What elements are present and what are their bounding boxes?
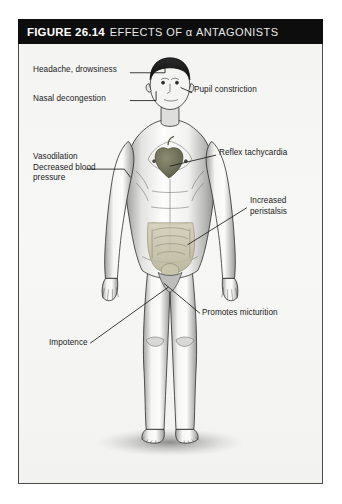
figure-number: FIGURE 26.14	[27, 26, 105, 38]
figure-panel: FIGURE 26.14 EFFECTS OF α ANTAGONISTS	[0, 0, 342, 504]
label-reflex-tachycardia: Reflex tachycardia	[219, 148, 287, 159]
right-hand	[222, 278, 238, 300]
label-pupil-constriction: Pupil constriction	[194, 85, 257, 96]
body-figure	[102, 58, 238, 443]
figure-content-panel: Headache, drowsiness Nasal decongestion …	[18, 44, 323, 484]
left-hand	[102, 278, 118, 300]
label-vasodilation: Vasodilation Decreased blood pressure	[33, 152, 96, 184]
label-increased-peristalsis: Increased peristalsis	[250, 196, 287, 217]
right-eye	[175, 81, 178, 84]
left-foot	[142, 429, 164, 443]
floor-shadow	[96, 428, 243, 456]
label-promotes-micturition: Promotes micturition	[202, 308, 278, 319]
right-nipple	[185, 160, 188, 163]
label-headache-drowsiness: Headache, drowsiness	[33, 65, 117, 76]
label-nasal-decongestion: Nasal decongestion	[33, 94, 106, 105]
label-impotence: Impotence	[49, 338, 88, 349]
figure-title: EFFECTS OF α ANTAGONISTS	[110, 26, 279, 38]
right-foot	[176, 429, 198, 443]
anatomical-figure-illustration	[19, 44, 322, 483]
neck	[161, 108, 179, 127]
left-eye	[162, 81, 165, 84]
figure-title-bar: FIGURE 26.14 EFFECTS OF α ANTAGONISTS	[18, 19, 323, 44]
